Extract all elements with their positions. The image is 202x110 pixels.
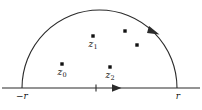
pole-dot-z0: [60, 62, 63, 65]
pole-label-z2-subscript: 2: [110, 74, 114, 82]
complex-contour-figure: z0 z1 z2 −r r: [0, 0, 202, 110]
right-radius-label: r: [176, 92, 180, 101]
pole-dot-z2: [108, 65, 111, 68]
pole-dot-z1: [91, 34, 94, 37]
baseline-arrow-icon: [112, 84, 122, 91]
arc-arrow-icon: [147, 26, 160, 35]
pole-dot-unlabeled-lower: [135, 43, 138, 46]
pole-label-z0-subscript: 0: [62, 71, 66, 79]
pole-label-z1-subscript: 1: [93, 43, 97, 51]
pole-label-z1: z1: [89, 40, 98, 49]
semicircle-arc-path: [22, 10, 177, 88]
contour-diagram-svg: [0, 0, 202, 110]
pole-dot-unlabeled-upper: [123, 29, 126, 32]
pole-label-z0: z0: [58, 68, 67, 77]
pole-label-z2: z2: [106, 71, 115, 80]
left-radius-label: −r: [16, 92, 28, 101]
